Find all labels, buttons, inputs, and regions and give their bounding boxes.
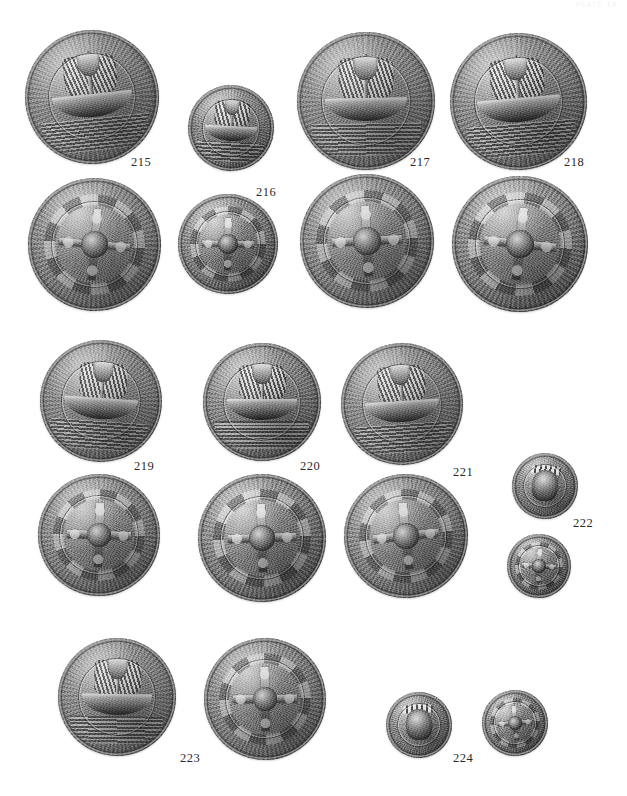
coin-image <box>203 343 321 461</box>
coin-caption-number: 222 <box>573 516 593 531</box>
coin-image <box>509 450 581 522</box>
coin-image <box>296 31 436 171</box>
coin-image <box>505 532 572 599</box>
plate-running-head: PLATE 14 <box>576 1 617 8</box>
coin-image <box>297 171 438 312</box>
coin-image <box>22 172 166 316</box>
coin-image <box>196 472 328 604</box>
coin-rim <box>298 172 437 311</box>
coin-caption-number: 218 <box>564 155 584 170</box>
coin-image <box>338 468 474 604</box>
coin-image <box>186 83 276 173</box>
coin-image <box>444 27 592 175</box>
coin-caption-number: 221 <box>453 465 473 480</box>
coin-image <box>337 339 467 469</box>
coin-rim <box>446 170 593 317</box>
coin-caption-number: 223 <box>180 751 200 766</box>
coin-image <box>57 637 177 757</box>
coin-image <box>177 193 279 295</box>
coin-image <box>18 23 165 170</box>
coin-image <box>479 687 551 759</box>
coin-caption-number: 220 <box>300 459 320 474</box>
coin-caption-number: 224 <box>453 751 473 766</box>
coin-rim <box>339 469 473 603</box>
coin-rim <box>19 24 164 169</box>
coin-caption-number: 216 <box>256 185 276 200</box>
coin-image <box>203 637 327 761</box>
coin-image <box>36 336 166 466</box>
coin-caption-number: 219 <box>134 459 154 474</box>
plate-page: PLATE 14 215216217218219220221222223224 <box>0 0 627 796</box>
coin-rim <box>204 344 320 460</box>
coin-image <box>384 690 453 759</box>
coin-caption-number: 217 <box>410 155 430 170</box>
coin-image <box>445 169 594 318</box>
coin-caption-number: 215 <box>131 155 151 170</box>
coin-image <box>36 472 162 598</box>
coin-rim <box>24 174 166 316</box>
